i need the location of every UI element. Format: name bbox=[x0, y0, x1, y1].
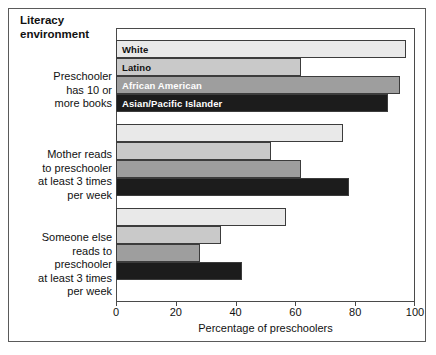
chart-figure: Literacy environment Preschooler has 10 … bbox=[0, 0, 436, 355]
category-label-mother-reads-line-2: to preschooler bbox=[10, 162, 112, 176]
bar-asian_pacific_islander-group-0: Asian/Pacific Islander bbox=[116, 94, 388, 112]
category-label-someone-else-reads-line-1: Someone else bbox=[10, 231, 112, 245]
category-label-someone-else-reads-line-3: preschooler bbox=[10, 258, 112, 272]
x-tick-label-0: 0 bbox=[113, 306, 119, 318]
x-axis-ticks: 020406080100 bbox=[116, 302, 415, 318]
x-tick-label-100: 100 bbox=[406, 306, 424, 318]
bar-asian_pacific_islander-group-1 bbox=[116, 178, 349, 196]
category-label-someone-else-reads-line-5: per week bbox=[10, 285, 112, 299]
category-label-someone-else-reads-line-4: at least 3 times bbox=[10, 272, 112, 286]
x-tick-label-20: 20 bbox=[170, 306, 182, 318]
category-label-someone-else-reads: Someone else reads to preschooler at lea… bbox=[10, 231, 112, 299]
category-label-mother-reads-line-4: per week bbox=[10, 189, 112, 203]
bar-latino-group-2 bbox=[116, 226, 221, 244]
category-label-someone-else-reads-line-2: reads to bbox=[10, 245, 112, 259]
x-tick-label-40: 40 bbox=[229, 306, 241, 318]
x-tick-label-60: 60 bbox=[289, 306, 301, 318]
series-label-white: White bbox=[122, 44, 148, 55]
series-label-african_american: African American bbox=[122, 80, 202, 91]
category-label-mother-reads-line-1: Mother reads bbox=[10, 148, 112, 162]
bar-latino-group-1 bbox=[116, 142, 271, 160]
x-tick-label-80: 80 bbox=[349, 306, 361, 318]
bar-latino-group-0: Latino bbox=[116, 58, 301, 76]
category-label-books: Preschooler has 10 or more books bbox=[10, 70, 112, 111]
chart-title-line-1: Literacy bbox=[20, 14, 130, 28]
bar-white-group-0: White bbox=[116, 40, 406, 58]
series-label-latino: Latino bbox=[122, 62, 151, 73]
series-label-asian_pacific_islander: Asian/Pacific Islander bbox=[122, 98, 222, 109]
category-axis-labels: Preschooler has 10 or more books Mother … bbox=[8, 28, 112, 302]
category-label-mother-reads-line-3: at least 3 times bbox=[10, 175, 112, 189]
bar-african_american-group-0: African American bbox=[116, 76, 400, 94]
x-axis-label: Percentage of preschoolers bbox=[116, 322, 415, 334]
bar-african_american-group-1 bbox=[116, 160, 301, 178]
bar-white-group-1 bbox=[116, 124, 343, 142]
category-label-books-line-2: has 10 or bbox=[10, 84, 112, 98]
category-label-books-line-1: Preschooler bbox=[10, 70, 112, 84]
bar-asian_pacific_islander-group-2 bbox=[116, 262, 242, 280]
bar-white-group-2 bbox=[116, 208, 286, 226]
bars-layer: WhiteLatinoAfrican AmericanAsian/Pacific… bbox=[116, 28, 415, 302]
category-label-books-line-3: more books bbox=[10, 97, 112, 111]
bar-african_american-group-2 bbox=[116, 244, 200, 262]
category-label-mother-reads: Mother reads to preschooler at least 3 t… bbox=[10, 148, 112, 202]
